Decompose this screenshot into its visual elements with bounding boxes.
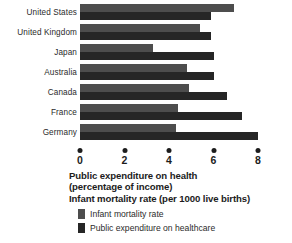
legend-label: Public expenditure on healthcare	[90, 224, 215, 233]
legend-label: Infant mortality rate	[90, 210, 164, 219]
bar-infant-mortality-rate	[80, 124, 176, 132]
bar-group: United Kingdom	[0, 24, 292, 41]
axis-tick-label: 6	[211, 155, 217, 166]
bar-chart: United States United Kingdom Japan Austr…	[0, 0, 292, 243]
axis-tick-dot	[211, 148, 216, 153]
bar-public-expenditure	[80, 12, 211, 20]
bar-infant-mortality-rate	[80, 4, 234, 12]
bar-group: Australia	[0, 64, 292, 81]
x-axis: 0 2 4 6 8	[0, 148, 292, 172]
legend-item-infant-mortality-rate: Infant mortality rate	[78, 208, 292, 220]
category-label: United States	[0, 8, 77, 16]
axis-tick-dot	[256, 148, 261, 153]
bar-public-expenditure	[80, 92, 227, 100]
category-label: Japan	[0, 48, 77, 56]
bar-public-expenditure	[80, 32, 211, 40]
axis-tick-label: 0	[77, 155, 83, 166]
category-label: Australia	[0, 68, 77, 76]
axis-tick-dot	[122, 148, 127, 153]
bar-public-expenditure	[80, 132, 258, 140]
bar-group: Canada	[0, 84, 292, 101]
category-label: France	[0, 108, 77, 116]
bar-group: France	[0, 104, 292, 121]
bar-public-expenditure	[80, 112, 242, 120]
title-line-1: Public expenditure on health	[69, 170, 292, 181]
axis-tick-label: 2	[122, 155, 128, 166]
bar-infant-mortality-rate	[80, 84, 189, 92]
bar-infant-mortality-rate	[80, 44, 153, 52]
title-line-3: Infant mortality rate (per 1000 live bir…	[69, 193, 292, 204]
bar-infant-mortality-rate	[80, 64, 187, 72]
title-line-2: (percentage of income)	[69, 181, 292, 192]
bar-infant-mortality-rate	[80, 104, 178, 112]
legend-item-public-expenditure: Public expenditure on healthcare	[78, 222, 292, 234]
bar-group: United States	[0, 4, 292, 21]
axis-tick-dot	[78, 148, 83, 153]
category-label: Germany	[0, 128, 77, 136]
legend-swatch-icon	[78, 209, 85, 219]
category-label: United Kingdom	[0, 28, 77, 36]
plot-area: United States United Kingdom Japan Austr…	[0, 4, 292, 150]
chart-title: Public expenditure on health (percentage…	[69, 170, 292, 204]
bar-group: Japan	[0, 44, 292, 61]
bar-public-expenditure	[80, 72, 214, 80]
bar-infant-mortality-rate	[80, 24, 200, 32]
legend: Infant mortality rate Public expenditure…	[78, 208, 292, 236]
axis-tick-dot	[167, 148, 172, 153]
axis-tick-label: 8	[255, 155, 261, 166]
legend-swatch-icon	[78, 223, 85, 233]
axis-tick-label: 4	[166, 155, 172, 166]
category-label: Canada	[0, 88, 77, 96]
bar-group: Germany	[0, 124, 292, 141]
bar-public-expenditure	[80, 52, 214, 60]
